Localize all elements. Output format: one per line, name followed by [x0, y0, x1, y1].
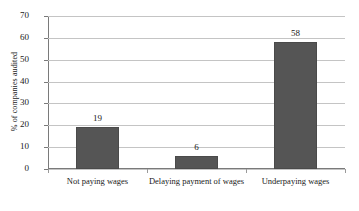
y-tick-mark — [44, 147, 48, 148]
y-tick-label: 50 — [0, 55, 29, 64]
bar-value-label: 6 — [177, 143, 217, 152]
y-tick-mark — [44, 125, 48, 126]
gridline — [48, 16, 345, 17]
bar — [175, 156, 218, 169]
y-tick-mark — [44, 82, 48, 83]
y-tick-label: 20 — [0, 120, 29, 129]
y-tick-mark — [44, 38, 48, 39]
category-tick — [246, 169, 247, 173]
y-tick-label: 0 — [0, 164, 29, 173]
bar-chart: % of companies audited 010203040506070 1… — [0, 0, 359, 211]
x-axis-label: Delaying payment of wages — [147, 176, 246, 187]
y-tick-label: 30 — [0, 98, 29, 107]
gridline — [48, 169, 345, 170]
bar-value-label: 19 — [78, 114, 118, 123]
category-tick — [345, 169, 346, 173]
plot-area: 010203040506070 19658 — [48, 16, 345, 169]
bar — [76, 127, 119, 169]
x-axis-label: Not paying wages — [48, 176, 147, 187]
y-tick-mark — [44, 16, 48, 17]
y-axis-title: % of companies audited — [10, 32, 19, 152]
x-axis-label: Underpaying wages — [246, 176, 345, 187]
y-tick-label: 10 — [0, 142, 29, 151]
bar-value-label: 58 — [276, 29, 316, 38]
y-tick-mark — [44, 103, 48, 104]
y-tick-label: 70 — [0, 11, 29, 20]
y-tick-label: 60 — [0, 33, 29, 42]
category-tick — [48, 169, 49, 173]
y-tick-mark — [44, 60, 48, 61]
y-tick-label: 40 — [0, 77, 29, 86]
bar — [274, 42, 317, 169]
category-tick — [147, 169, 148, 173]
